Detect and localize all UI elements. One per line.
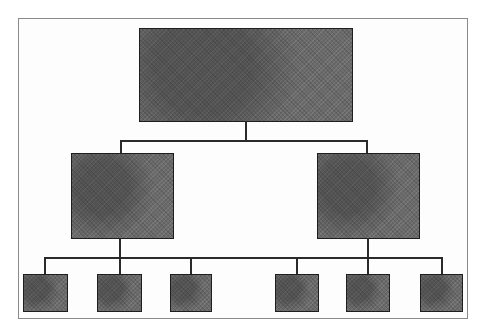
leaf-connector-1 — [44, 257, 46, 274]
level3-connector-bar — [45, 257, 443, 259]
leaf-connector-5 — [367, 257, 369, 274]
leaf-connector-6 — [441, 257, 443, 274]
leaf-connector-4 — [296, 257, 298, 274]
level2-connector-bar — [120, 140, 368, 142]
leaf-node-6 — [420, 274, 463, 312]
leaf-node-5 — [346, 274, 390, 312]
level2-connector-right — [366, 140, 368, 154]
leaf-connector-2 — [119, 257, 121, 274]
root-connector-down — [245, 121, 247, 142]
leaf-node-1 — [23, 274, 68, 312]
right-branch-connector-down — [367, 238, 369, 258]
leaf-node-3 — [170, 274, 212, 312]
root-node — [139, 28, 353, 122]
level2-node-right — [317, 153, 420, 239]
level2-connector-left — [120, 140, 122, 154]
left-branch-connector-down — [119, 238, 121, 258]
level2-node-left — [71, 153, 174, 239]
leaf-node-4 — [275, 274, 319, 312]
leaf-connector-3 — [190, 257, 192, 274]
leaf-node-2 — [97, 274, 142, 312]
